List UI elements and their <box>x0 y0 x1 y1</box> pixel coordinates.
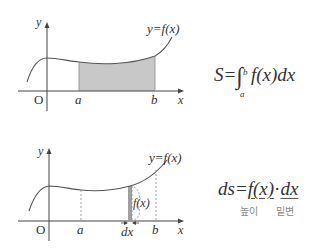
origin-label: O <box>34 92 43 107</box>
y-axis-label: y <box>35 15 42 29</box>
width-term: dx <box>280 178 298 199</box>
dx-label: dx <box>121 224 134 239</box>
formula-lhs: S= <box>214 64 236 85</box>
top-graph: y x O a b y=f(x) <box>18 15 184 111</box>
a-label: a <box>77 222 84 237</box>
y-axis-label: y <box>37 144 44 158</box>
area-integral-formula: S=∫baf(x)dx <box>214 60 295 87</box>
y-axis-arrow-icon <box>47 148 52 154</box>
height-caption: 높이 <box>240 203 258 218</box>
diagram-canvas: y x O a b y=f(x) y x O a b dx f(x) <box>0 0 314 250</box>
upper-limit: b <box>243 67 248 77</box>
width-caption: 밑변 <box>276 203 294 218</box>
curve-label: y=f(x) <box>147 150 182 165</box>
origin-label: O <box>36 222 45 237</box>
height-label: f(x) <box>133 196 150 210</box>
integrand: f(x)dx <box>251 64 295 85</box>
lower-limit: a <box>240 89 245 99</box>
x-axis-label: x <box>177 223 184 237</box>
curve-label: y=f(x) <box>145 21 180 36</box>
a-label: a <box>75 92 82 107</box>
b-label: b <box>152 222 159 237</box>
shaded-area <box>79 56 155 91</box>
height-term: f(x) <box>248 178 274 199</box>
y-axis-arrow-icon <box>45 22 50 28</box>
formula-lhs: ds= <box>218 178 248 199</box>
bottom-graph: y x O a b dx f(x) y=f(x) <box>18 144 184 241</box>
b-label: b <box>151 92 158 107</box>
x-axis-label: x <box>177 93 184 107</box>
element-area-formula: ds=f(x)·dx <box>218 178 298 200</box>
integral-sign-icon: ∫ <box>236 63 243 89</box>
dx-strip <box>128 186 132 221</box>
